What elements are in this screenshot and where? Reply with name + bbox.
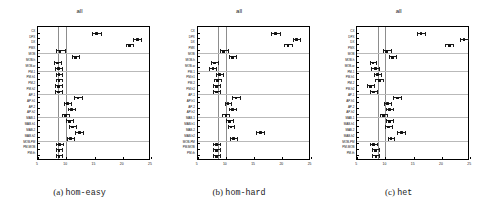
error-bar-cap-low xyxy=(445,44,446,48)
error-bar-cap-high xyxy=(425,32,426,36)
point-marker xyxy=(78,131,81,134)
data-point xyxy=(372,149,379,150)
y-axis-label: MAB-h1 xyxy=(344,123,355,126)
y-axis-label: AP-h1 xyxy=(27,100,35,103)
x-axis-tick xyxy=(254,157,255,160)
group-separator xyxy=(38,141,149,142)
caption-name: hom-easy xyxy=(66,188,106,198)
x-axis-tick-label: 25 xyxy=(308,162,312,166)
data-point xyxy=(384,103,391,104)
point-marker xyxy=(369,85,372,88)
error-bar-cap-low xyxy=(222,114,223,118)
x-axis-tick-label: 5 xyxy=(36,162,38,166)
caption-name: hom-hard xyxy=(225,188,265,198)
error-bar-cap-high xyxy=(393,119,394,123)
y-axis-tick xyxy=(38,56,40,57)
point-marker xyxy=(374,67,377,70)
error-bar-cap-high xyxy=(228,49,229,53)
point-marker xyxy=(69,137,72,140)
point-marker xyxy=(58,143,61,146)
error-bar-cap-high xyxy=(453,44,454,48)
error-bar-cap-high xyxy=(62,79,63,83)
y-axis-tick xyxy=(357,102,359,103)
point-marker xyxy=(74,56,77,59)
y-axis-label: AP-2 xyxy=(188,106,194,109)
error-bar-cap-low xyxy=(293,38,294,42)
y-axis-label: AP-1 xyxy=(188,94,194,97)
y-axis-tick xyxy=(38,102,40,103)
y-axis-tick xyxy=(357,97,359,98)
error-bar-cap-high xyxy=(377,143,378,147)
data-point xyxy=(385,126,392,127)
error-bar-cap-low xyxy=(62,114,63,118)
error-bar-cap-high xyxy=(236,108,237,112)
data-point xyxy=(56,155,63,156)
error-bar-cap-high xyxy=(392,125,393,129)
error-bar-cap-low xyxy=(55,84,56,88)
error-bar-cap-low xyxy=(370,61,371,65)
data-point xyxy=(389,56,396,57)
y-axis-tick xyxy=(38,38,40,39)
x-axis-tick-label: 20 xyxy=(120,162,124,166)
x-axis-tick-label: 15 xyxy=(411,162,415,166)
group-separator xyxy=(198,94,309,95)
error-bar-cap-low xyxy=(374,73,375,77)
error-bar-cap-low xyxy=(386,119,387,123)
y-axis-tick xyxy=(198,132,200,133)
error-bar-cap-low xyxy=(54,61,55,65)
panel-hom-hard: allCXDPXDXPMXMOBMOB-hMOB-wPM-1PM-h1PM-2P… xyxy=(160,0,319,202)
point-marker xyxy=(225,114,228,117)
data-point xyxy=(222,114,229,115)
y-axis-label: PM-h1 xyxy=(346,77,355,80)
point-marker xyxy=(64,114,67,117)
point-marker xyxy=(388,120,391,123)
y-axis-label: MOB-w xyxy=(345,65,355,68)
caption-index: (c) xyxy=(385,187,395,197)
point-marker xyxy=(274,32,277,35)
data-point xyxy=(371,68,379,69)
error-bar-cap-low xyxy=(220,49,221,53)
x-axis-tick xyxy=(385,157,386,160)
error-bar-cap-low xyxy=(56,154,57,158)
y-axis-tick xyxy=(198,126,200,127)
data-point xyxy=(226,120,233,121)
error-bar-cap-low xyxy=(232,96,233,100)
error-bar-cap-low xyxy=(213,143,214,147)
point-marker xyxy=(57,67,60,70)
y-axis-label: AP-2 xyxy=(348,106,354,109)
data-point xyxy=(66,120,73,121)
error-bar-cap-low xyxy=(214,79,215,83)
error-bar-cap-high xyxy=(233,119,234,123)
y-axis-tick xyxy=(38,108,40,109)
y-axis-tick xyxy=(198,120,200,121)
data-point xyxy=(74,97,82,98)
error-bar-cap-low xyxy=(389,55,390,59)
error-bar-cap-high xyxy=(133,44,134,48)
y-axis-label: AP-h2 xyxy=(27,112,35,115)
y-axis-tick xyxy=(38,85,40,86)
data-point xyxy=(55,68,62,69)
y-axis-tick xyxy=(38,143,40,144)
group-separator xyxy=(198,53,309,54)
group-separator xyxy=(38,94,149,95)
plot-area xyxy=(197,26,310,160)
y-axis-tick xyxy=(38,91,40,92)
error-bar-cap-low xyxy=(372,148,373,152)
y-axis-label: PM-h1 xyxy=(186,77,195,80)
panel-hom-easy: allCXDPXDXPMXMOBMOB-hMOB-wPM-1PM-h1PM-2P… xyxy=(0,0,159,202)
error-bar-cap-low xyxy=(367,84,368,88)
y-axis-tick xyxy=(198,56,200,57)
error-bar-cap-high xyxy=(218,61,219,65)
y-axis-label: PM-h2 xyxy=(346,88,355,91)
x-axis-tick-label: 20 xyxy=(439,162,443,166)
error-bar-cap-low xyxy=(370,90,371,94)
group-separator xyxy=(357,94,468,95)
error-bar-cap-high xyxy=(79,55,80,59)
y-axis-tick xyxy=(38,73,40,74)
y-axis-label: AP-1 xyxy=(348,94,354,97)
x-axis-tick xyxy=(311,157,312,160)
reference-line-0 xyxy=(218,27,219,159)
error-bar-cap-low xyxy=(55,67,56,71)
y-axis-tick xyxy=(38,97,40,98)
data-point xyxy=(62,114,69,115)
